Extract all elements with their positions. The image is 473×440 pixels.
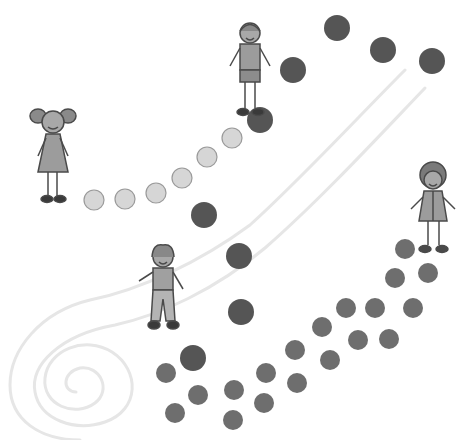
shorts <box>240 70 260 82</box>
left-shoe <box>237 109 249 116</box>
light-dot <box>222 128 242 148</box>
right-arm <box>173 272 183 289</box>
mid-dot <box>348 330 368 350</box>
right-shoe <box>436 246 448 253</box>
mid-dot <box>418 263 438 283</box>
mid-dot <box>285 340 305 360</box>
dark-dot <box>191 202 217 228</box>
dark-dot <box>324 15 350 41</box>
mid-dot <box>224 380 244 400</box>
child-boy-right <box>411 162 455 253</box>
double-dot-path <box>156 239 438 430</box>
dark-dot <box>226 243 252 269</box>
right-shoe <box>54 196 66 203</box>
mid-dot <box>385 268 405 288</box>
dark-dot <box>370 37 396 63</box>
trousers <box>151 290 175 321</box>
mid-dot <box>287 373 307 393</box>
child-girl-pigtails <box>30 109 76 203</box>
light-dot <box>197 147 217 167</box>
light-dot <box>115 189 135 209</box>
trail <box>10 70 425 440</box>
shirt <box>240 44 260 70</box>
dark-dot <box>419 48 445 74</box>
left-arm <box>230 48 240 66</box>
light-dot-path <box>84 128 242 210</box>
dress <box>38 134 68 172</box>
illustration-scene: Hand-drawn illustration of four children… <box>0 0 473 440</box>
mid-dot <box>336 298 356 318</box>
mid-dot <box>165 403 185 423</box>
mid-dot <box>188 385 208 405</box>
trail-line-outer <box>10 70 405 440</box>
mid-dot <box>379 329 399 349</box>
left-shoe <box>41 196 53 203</box>
mid-dot <box>395 239 415 259</box>
dark-dot <box>228 299 254 325</box>
mid-dot <box>256 363 276 383</box>
mid-dot <box>156 363 176 383</box>
right-shoe <box>167 321 179 329</box>
shirt <box>153 268 173 290</box>
mid-dot <box>223 410 243 430</box>
mid-dot <box>312 317 332 337</box>
light-dot <box>84 190 104 210</box>
mid-dot <box>365 298 385 318</box>
child-boy-top <box>230 23 270 116</box>
mid-dot <box>254 393 274 413</box>
right-shoe <box>252 109 264 116</box>
light-dot <box>146 183 166 203</box>
mid-dot <box>320 350 340 370</box>
dark-dot <box>180 345 206 371</box>
hair <box>152 245 174 257</box>
light-dot <box>172 168 192 188</box>
dark-dot-path <box>180 15 445 371</box>
right-arm <box>260 48 270 66</box>
left-shoe <box>148 321 160 329</box>
left-shoe <box>419 246 431 253</box>
mid-dot <box>403 298 423 318</box>
dark-dot <box>280 57 306 83</box>
